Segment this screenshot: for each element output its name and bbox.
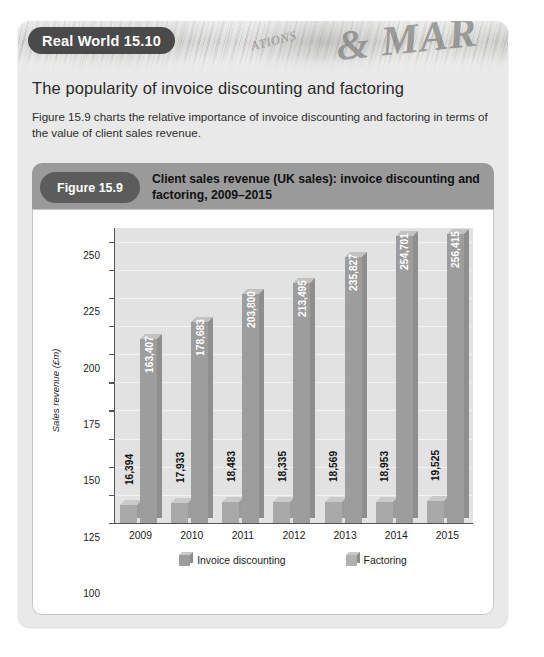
- bar-factoring-2013: 18,569: [325, 502, 342, 523]
- bar-value-label: 17,933: [174, 452, 185, 483]
- figure-block: Figure 15.9 Client sales revenue (UK sal…: [32, 163, 494, 615]
- y-axis-tick: 0: [109, 523, 115, 524]
- bar-value-label: 254,701: [399, 233, 410, 270]
- legend-swatch-icon: [346, 555, 357, 566]
- bar-invoice-discounting-2013: 235,827: [345, 257, 362, 523]
- bar-factoring-2012: 18,335: [273, 502, 290, 523]
- bar-invoice-discounting-2010: 178,683: [191, 322, 208, 523]
- bar-value-label: 235,827: [348, 255, 359, 292]
- figure-plot-card: Sales revenue (£m) 025507510012515017520…: [32, 209, 494, 615]
- bar-value-label: 213,495: [296, 280, 307, 317]
- bar-side-face: [464, 229, 469, 518]
- legend-label: Invoice discounting: [197, 555, 285, 566]
- x-axis-tick-label: 2014: [371, 530, 422, 541]
- real-world-card: ATIONS & MAR Real World 15.10 The popula…: [18, 21, 508, 627]
- bar-factoring-2009: 16,394: [120, 505, 137, 523]
- bar-front-face: [396, 236, 413, 523]
- bar-front-face: [171, 503, 188, 523]
- legend-label: Factoring: [364, 555, 407, 566]
- bar-front-face: [345, 257, 362, 523]
- bar-value-label: 19,525: [430, 450, 441, 481]
- bar-value-label: 18,953: [379, 451, 390, 482]
- legend-item: Invoice discounting: [179, 555, 285, 566]
- bar-factoring-2015: 19,525: [427, 501, 444, 523]
- bar-value-label: 178,683: [194, 319, 205, 356]
- bar-invoice-discounting-2015: 256,415: [447, 234, 464, 523]
- y-axis-tick-label: 100: [83, 587, 100, 598]
- x-axis-tick-label: 2011: [217, 530, 268, 541]
- y-axis-tick-label: 125: [83, 531, 100, 542]
- bar-side-face: [362, 252, 367, 518]
- bar-value-label: 256,415: [450, 231, 461, 268]
- bar-value-label: 203,800: [245, 291, 256, 328]
- bar-front-face: [293, 283, 310, 523]
- bar-side-face: [259, 289, 264, 518]
- x-axis-line: [115, 523, 473, 524]
- bar-factoring-2010: 17,933: [171, 503, 188, 523]
- bar-factoring-2014: 18,953: [376, 502, 393, 523]
- x-axis-tick-label: 2010: [166, 530, 217, 541]
- bar-front-face: [447, 234, 464, 523]
- bar-group: 18,335213,4952012: [268, 228, 319, 523]
- bar-side-face: [157, 334, 162, 518]
- bar-value-label: 16,394: [123, 453, 134, 484]
- bar-side-face: [208, 317, 213, 518]
- bar-group: 17,933178,6832010: [166, 228, 217, 523]
- bar-front-face: [376, 502, 393, 523]
- bar-value-label: 18,335: [276, 451, 287, 482]
- y-axis-tick-label: 250: [83, 250, 100, 261]
- bar-front-face: [273, 502, 290, 523]
- bar-front-face: [427, 501, 444, 523]
- bar-invoice-discounting-2014: 254,701: [396, 236, 413, 523]
- bar-side-face: [310, 278, 315, 518]
- bar-invoice-discounting-2009: 163,407: [140, 339, 157, 523]
- bar-group: 18,569235,8272013: [320, 228, 371, 523]
- legend-swatch-icon: [179, 555, 190, 566]
- bar-side-face: [413, 231, 418, 518]
- bar-front-face: [120, 505, 137, 523]
- x-axis-tick-label: 2013: [320, 530, 371, 541]
- bar-front-face: [325, 502, 342, 523]
- y-axis-tick-label: 150: [83, 475, 100, 486]
- bar-invoice-discounting-2011: 203,800: [242, 294, 259, 523]
- figure-caption-bar: Figure 15.9 Client sales revenue (UK sal…: [32, 163, 494, 213]
- section-heading: The popularity of invoice discounting an…: [32, 79, 492, 98]
- y-axis-tick-label: 225: [83, 306, 100, 317]
- x-axis-tick-label: 2012: [268, 530, 319, 541]
- plot-area: 025507510012515017520022525016,394163,40…: [114, 228, 473, 523]
- bar-chart: Sales revenue (£m) 025507510012515017520…: [33, 210, 495, 616]
- bar-invoice-discounting-2012: 213,495: [293, 283, 310, 523]
- bar-group: 19,525256,4152015: [422, 228, 473, 523]
- x-axis-tick-label: 2015: [422, 530, 473, 541]
- bar-value-label: 18,569: [328, 451, 339, 482]
- x-axis-tick-label: 2009: [115, 530, 166, 541]
- chart-legend: Invoice discountingFactoring: [114, 555, 472, 566]
- banner-fade: [18, 57, 508, 73]
- bar-group: 18,953254,7012014: [371, 228, 422, 523]
- real-world-badge: Real World 15.10: [28, 27, 175, 54]
- section-body-text: Figure 15.9 charts the relative importan…: [32, 109, 494, 140]
- bar-group: 18,483203,8002011: [217, 228, 268, 523]
- y-axis-tick-label: 200: [83, 362, 100, 373]
- legend-item: Factoring: [346, 555, 407, 566]
- bar-factoring-2011: 18,483: [222, 502, 239, 523]
- bar-group: 16,394163,4072009: [115, 228, 166, 523]
- figure-title: Client sales revenue (UK sales): invoice…: [152, 171, 482, 203]
- y-axis-tick-label: 175: [83, 418, 100, 429]
- bar-front-face: [242, 294, 259, 523]
- bar-value-label: 163,407: [143, 336, 154, 373]
- bar-front-face: [222, 502, 239, 523]
- bar-value-label: 18,483: [225, 451, 236, 482]
- y-axis-label: Sales revenue (£m): [50, 331, 61, 451]
- figure-number-badge: Figure 15.9: [40, 172, 140, 203]
